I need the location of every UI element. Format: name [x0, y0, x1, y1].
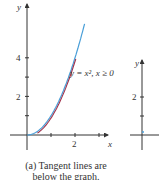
curve-label: y = x², x ≥ 0	[69, 68, 114, 78]
caption-line-2: below the graph.	[6, 171, 126, 180]
caption: (a) Tangent lines are below the graph.	[6, 160, 126, 180]
panel-b-y-label: y	[134, 58, 139, 68]
panel-b-point	[142, 131, 144, 133]
parabola-curve	[27, 24, 85, 135]
y-tick-label-2: 2	[16, 92, 21, 102]
panel-b-y-tick-2: 2	[132, 92, 137, 102]
y-tick-label-4: 4	[16, 53, 21, 63]
y-axis-label: y	[16, 2, 21, 12]
x-tick-label-2: 2	[72, 139, 77, 149]
caption-line-1: (a) Tangent lines are	[6, 160, 126, 171]
x-axis-label: x	[107, 139, 112, 149]
figure-canvas: y x 2 4 2 y = x², x ≥ 0 y 2	[0, 0, 159, 180]
